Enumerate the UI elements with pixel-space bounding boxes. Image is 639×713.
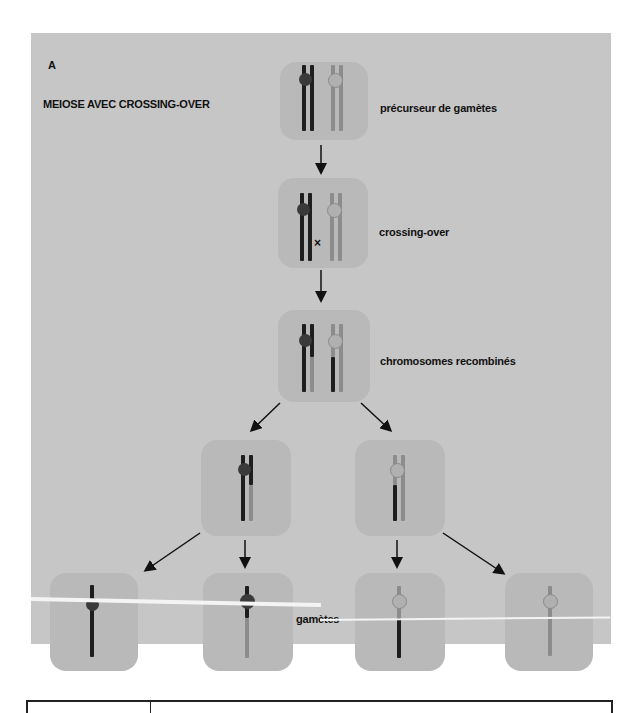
- table-divider: [150, 702, 151, 713]
- table-header-border: [26, 700, 613, 713]
